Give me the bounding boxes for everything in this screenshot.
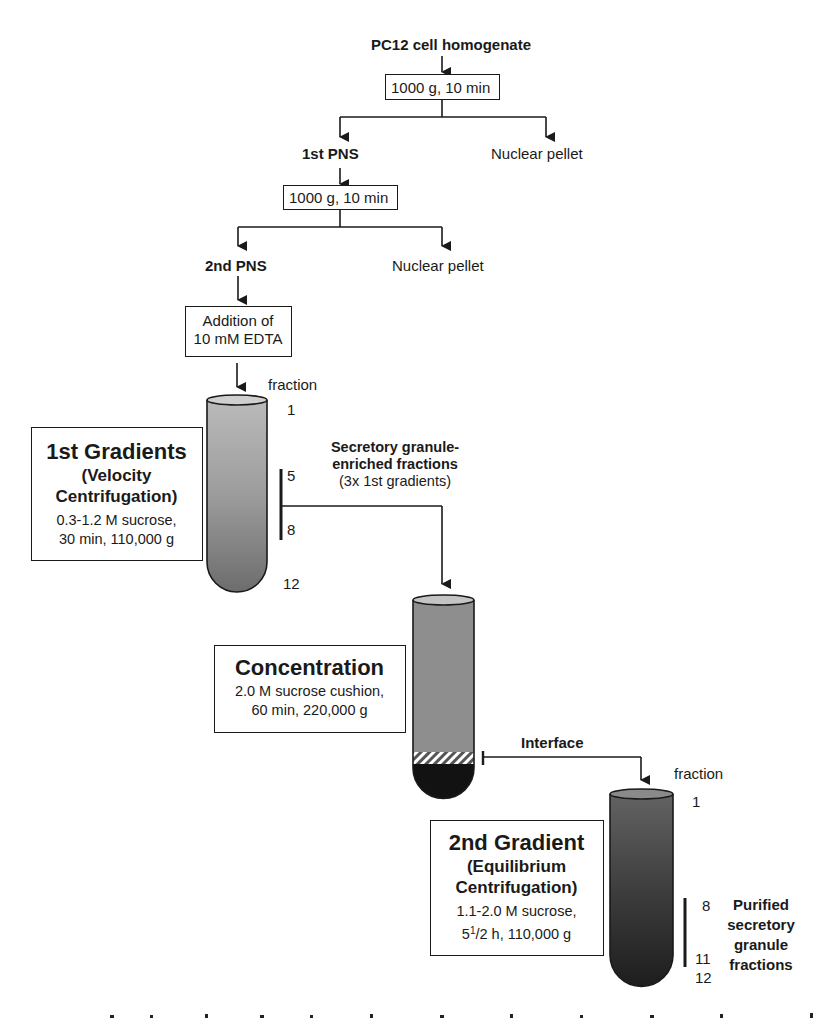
fraction-1-top: 1: [287, 402, 295, 417]
first-gradients-box: 1st Gradients (Velocity Centrifugation) …: [31, 427, 203, 561]
first-gradients-cond-2: 30 min, 110,000 g: [32, 530, 201, 549]
first-gradients-cond-1: 0.3-1.2 M sucrose,: [32, 511, 201, 530]
first-gradients-subtitle-1: (Velocity: [32, 465, 201, 486]
tube-concentration: [410, 595, 478, 805]
fraction-1-to: 8: [287, 522, 295, 537]
fraction-label-2: fraction: [674, 766, 723, 781]
first-gradients-subtitle-2: Centrifugation): [32, 486, 201, 508]
concentration-box: Concentration 2.0 M sucrose cushion, 60 …: [214, 645, 406, 733]
start-label-homogenate: PC12 cell homogenate: [371, 37, 531, 52]
second-gradient-box: 2nd Gradient (Equilibrium Centrifugation…: [430, 820, 604, 956]
edta-line-1: Addition of: [186, 312, 290, 330]
second-gradient-subtitle-1: (Equilibrium: [431, 856, 602, 877]
transfer-line-1: Secretory granule-: [315, 439, 475, 456]
purified-line-1: Purified: [720, 895, 802, 915]
concentration-cond-1: 2.0 M sucrose cushion,: [215, 682, 404, 701]
purified-line-2: secretory: [720, 915, 802, 935]
purified-line-3: granule: [720, 935, 802, 955]
purified-fractions-label: Purified secretory granule fractions: [720, 895, 802, 975]
concentration-title: Concentration: [215, 654, 404, 682]
second-pns-label: 2nd PNS: [205, 258, 267, 273]
first-gradients-title: 1st Gradients: [32, 439, 201, 465]
spin-box-1: 1000 g, 10 min: [385, 74, 500, 100]
spin-box-2: 1000 g, 10 min: [283, 185, 398, 210]
second-gradient-title: 2nd Gradient: [431, 830, 602, 856]
tube-1st-gradient: [205, 395, 270, 605]
fraction-2-top: 1: [692, 794, 700, 809]
spin-2-label: 1000 g, 10 min: [289, 190, 388, 205]
edta-addition-box: Addition of 10 mM EDTA: [185, 306, 292, 357]
fraction-1-bottom: 12: [283, 576, 300, 591]
nuclear-pellet-2-label: Nuclear pellet: [392, 258, 484, 273]
fraction-2-bottom: 12: [695, 970, 712, 985]
second-gradient-subtitle-2: Centrifugation): [431, 877, 602, 899]
secretory-enriched-label: Secretory granule- enriched fractions (3…: [315, 439, 475, 490]
second-gradient-cond-2: 51/2 h, 110,000 g: [431, 921, 602, 944]
cropped-caption-strip: [0, 1010, 836, 1018]
tube-2nd-gradient: [607, 789, 677, 990]
fraction-label-1: fraction: [268, 377, 317, 392]
cond2-whole: 5: [462, 926, 470, 942]
cond2-rest: /2 h, 110,000 g: [475, 926, 571, 942]
fraction-2-to: 11: [695, 951, 711, 966]
edta-line-2: 10 mM EDTA: [186, 330, 290, 348]
spin-1-label: 1000 g, 10 min: [391, 80, 490, 95]
concentration-cond-2: 60 min, 220,000 g: [215, 701, 404, 720]
fraction-1-from: 5: [287, 468, 295, 483]
nuclear-pellet-1-label: Nuclear pellet: [491, 146, 583, 161]
purified-line-4: fractions: [720, 955, 802, 975]
first-pns-label: 1st PNS: [302, 146, 359, 161]
transfer-line-2: enriched fractions: [315, 456, 475, 473]
interface-label: Interface: [521, 735, 584, 750]
second-gradient-cond-1: 1.1-2.0 M sucrose,: [431, 902, 602, 921]
transfer-line-3: (3x 1st gradients): [315, 473, 475, 490]
fraction-2-from: 8: [702, 898, 710, 913]
